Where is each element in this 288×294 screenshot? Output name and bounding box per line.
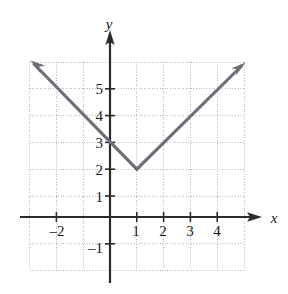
y-tick-label: 4 — [96, 108, 104, 124]
y-tick-label: 2 — [96, 162, 104, 178]
y-tick-label: 1 — [96, 189, 104, 205]
y-axis-label: y — [104, 16, 113, 32]
function-curve — [31, 61, 246, 170]
x-tick-labels: –2 1 2 3 4 — [49, 223, 222, 239]
x-tick-label: 3 — [186, 223, 194, 239]
x-tick-label: 1 — [132, 223, 140, 239]
y-tick-labels: 5 4 3 2 1 –1 — [87, 81, 104, 256]
y-tick-label: 3 — [96, 135, 104, 151]
graph-figure: –2 1 2 3 4 5 4 3 2 1 –1 y x — [0, 0, 288, 294]
y-tick-label: 5 — [96, 81, 104, 97]
function-curve-path — [34, 64, 243, 170]
x-tick-label: 4 — [213, 223, 221, 239]
coordinate-plane-svg: –2 1 2 3 4 5 4 3 2 1 –1 y x — [0, 0, 288, 294]
x-tick-label: 2 — [159, 223, 167, 239]
x-axis-label: x — [270, 210, 278, 226]
y-tick-label: –1 — [87, 240, 103, 256]
x-tick-label: –2 — [49, 223, 65, 239]
